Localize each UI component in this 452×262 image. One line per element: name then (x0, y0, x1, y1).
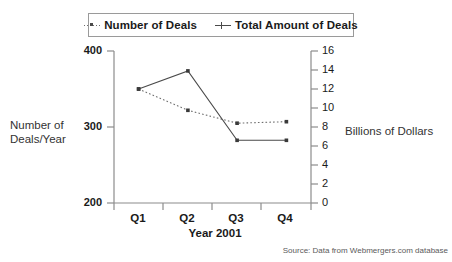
left-axis-title-line1: Number of (10, 118, 82, 132)
x-axis-title: Year 2001 (150, 227, 280, 239)
x-tick-label-q1: Q1 (118, 212, 158, 224)
right-tick-label-16: 16 (322, 44, 342, 56)
right-tick-label-4: 4 (322, 158, 342, 170)
right-axis-title: Billions of Dollars (345, 124, 450, 138)
left-tick-label-400: 400 (68, 44, 102, 56)
left-tick-label-200: 200 (68, 196, 102, 208)
right-tick-label-6: 6 (322, 139, 342, 151)
chart-figure: Number of Deals Total Amount of Deals (0, 0, 452, 262)
data-point-amount-q2 (186, 69, 190, 73)
x-tick-label-q3: Q3 (216, 212, 256, 224)
x-tick-label-q2: Q2 (167, 212, 207, 224)
left-axis-title: Number of Deals/Year (10, 118, 82, 146)
right-tick-label-8: 8 (322, 120, 342, 132)
right-tick-label-2: 2 (322, 177, 342, 189)
right-tick-label-14: 14 (322, 63, 342, 75)
series-line-total-amount-of-deals (139, 71, 287, 140)
data-point-amount-q1 (137, 87, 141, 91)
x-tick-label-q4: Q4 (265, 212, 305, 224)
source-note: Source: Data from Webmergers.com databas… (252, 246, 448, 255)
left-axis-title-line2: Deals/Year (10, 132, 82, 146)
right-tick-label-0: 0 (322, 196, 342, 208)
data-point-amount-q3 (235, 139, 239, 143)
right-tick-label-12: 12 (322, 82, 342, 94)
data-point-amount-q4 (285, 139, 289, 143)
right-tick-label-10: 10 (322, 101, 342, 113)
series-total-amount-of-deals (137, 69, 288, 142)
data-point-deals-q2 (186, 109, 190, 113)
data-point-deals-q3 (235, 121, 239, 125)
data-point-deals-q4 (285, 120, 289, 124)
